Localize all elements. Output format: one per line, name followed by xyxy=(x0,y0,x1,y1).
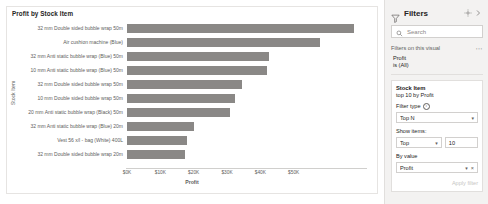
chevron-down-icon: ▾ xyxy=(465,165,468,171)
search-icon xyxy=(396,23,407,41)
bar[interactable] xyxy=(127,150,185,159)
x-axis-tick-label: $0K xyxy=(123,170,132,175)
show-items-direction-value: Top xyxy=(400,140,435,146)
filter-summary: top 10 by Profit xyxy=(396,92,478,100)
bar[interactable] xyxy=(127,52,269,61)
chevron-down-icon: ▾ xyxy=(471,115,474,121)
filters-search-placeholder: Search xyxy=(407,29,426,35)
by-value-text: By value xyxy=(396,153,417,160)
show-items-count-value: 10 xyxy=(449,140,455,146)
y-axis-category-label[interactable]: 32 mm Double sided bubble wrap 20m xyxy=(21,151,123,157)
filter-field-name: Profit xyxy=(393,55,483,62)
bar[interactable] xyxy=(127,136,187,145)
bar[interactable] xyxy=(127,122,194,131)
filters-pane-title: Filters xyxy=(404,9,463,18)
filters-search-box[interactable]: Search xyxy=(391,25,483,38)
y-axis-category-label[interactable]: Air cushion machine (Blue) xyxy=(21,39,123,45)
bar[interactable] xyxy=(127,80,242,89)
y-axis-category-labels[interactable]: 32 mm Double sided bubble wrap 50mAir cu… xyxy=(21,24,123,164)
show-items-count-input[interactable]: 10 xyxy=(445,137,478,148)
show-items-label: Show items: xyxy=(396,128,478,135)
x-axis-title: Profit xyxy=(7,179,377,185)
bar[interactable] xyxy=(127,24,354,33)
clear-field-icon[interactable]: × xyxy=(471,165,474,171)
info-icon[interactable]: i xyxy=(423,103,431,111)
apply-filter-button[interactable]: Apply filter xyxy=(396,178,478,186)
bar[interactable] xyxy=(127,38,320,47)
x-axis-tick-labels: $0K$10K$20K$30K$40K$50K xyxy=(7,170,377,179)
filter-field-name-stock-item: Stock Item xyxy=(396,85,478,92)
filter-type-label: Filter type i xyxy=(396,103,478,111)
y-axis-category-label[interactable]: 20 mm Anti static bubble wrap (Black) 50… xyxy=(21,109,123,115)
y-axis-category-label[interactable]: 32 mm Anti static bubble wrap (Blue) 20m xyxy=(21,123,123,129)
filter-funnel-icon xyxy=(391,9,400,18)
by-value-field-value: Profit xyxy=(400,165,465,171)
x-axis-tick-label: $10K xyxy=(155,170,166,175)
bar[interactable] xyxy=(127,66,267,75)
report-canvas: Profit by Stock Item Stock Item 32 mm Do… xyxy=(0,0,384,204)
filter-type-text: Filter type xyxy=(396,103,421,110)
y-axis-category-label[interactable]: Vest 56 x/l - bag (White) 400L xyxy=(21,137,123,143)
y-axis-title: Stock Item xyxy=(10,69,16,117)
chevron-right-icon[interactable] xyxy=(473,8,483,18)
chevron-down-icon: ▾ xyxy=(435,140,438,146)
bar[interactable] xyxy=(127,94,235,103)
pin-icon[interactable] xyxy=(463,8,473,18)
filters-pane-header: Filters xyxy=(391,6,483,20)
filter-field-value: is (All) xyxy=(393,62,483,69)
show-items-direction-select[interactable]: Top ▾ xyxy=(396,137,442,148)
plot-area: Stock Item 32 mm Double sided bubble wra… xyxy=(7,22,377,192)
y-axis-category-label[interactable]: 32 mm Double sided bubble wrap 50m xyxy=(21,25,123,31)
show-items-text: Show items: xyxy=(396,128,426,135)
filter-card-stock-item[interactable]: Stock Item top 10 by Profit Filter type … xyxy=(391,80,483,192)
visual-title: Profit by Stock Item xyxy=(12,10,73,17)
filters-on-visual-header: Filters on this visual ⋯ xyxy=(391,45,483,51)
filters-pane: Filters Search xyxy=(384,0,488,204)
show-items-row: Top ▾ 10 xyxy=(396,137,478,148)
bar-chart-visual[interactable]: Profit by Stock Item Stock Item 32 mm Do… xyxy=(6,6,378,194)
filter-type-value: Top N xyxy=(400,115,471,121)
report-page: Profit by Stock Item Stock Item 32 mm Do… xyxy=(0,0,488,204)
filter-card-profit[interactable]: Profit is (All) xyxy=(391,55,483,75)
y-axis-category-label[interactable]: 32 mm Double sided bubble wrap 50m xyxy=(21,81,123,87)
x-axis-tick-label: $40K xyxy=(255,170,266,175)
by-value-label: By value xyxy=(396,153,478,160)
x-axis-line xyxy=(126,168,367,169)
bar-series[interactable] xyxy=(127,24,367,164)
filters-on-visual-label: Filters on this visual xyxy=(391,45,440,51)
x-axis-tick-label: $30K xyxy=(221,170,232,175)
more-options-icon[interactable]: ⋯ xyxy=(476,46,484,51)
y-axis-category-label[interactable]: 10 mm Double sided bubble wrap 50m xyxy=(21,95,123,101)
y-axis-category-label[interactable]: 10 mm Anti static bubble wrap (Blue) 50m xyxy=(21,67,123,73)
x-axis-tick-label: $50K xyxy=(288,170,299,175)
y-axis-category-label[interactable]: 32 mm Anti static bubble wrap (Blue) 50m xyxy=(21,53,123,59)
x-axis-tick-label: $20K xyxy=(188,170,199,175)
bar[interactable] xyxy=(127,108,230,117)
by-value-field-select[interactable]: Profit ▾ × xyxy=(396,162,478,173)
filter-type-select[interactable]: Top N ▾ xyxy=(396,112,478,123)
